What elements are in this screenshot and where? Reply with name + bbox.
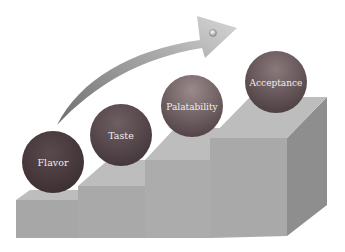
arrow-knob-icon xyxy=(210,30,217,37)
diagram-canvas: Flavor Taste Palatability Acceptance xyxy=(0,0,345,252)
step-acceptance: Acceptance xyxy=(245,51,307,113)
step-label: Flavor xyxy=(38,157,69,168)
step-label: Palatability xyxy=(166,102,218,112)
stair-front-4 xyxy=(210,138,287,238)
step-flavor: Flavor xyxy=(22,131,84,193)
step-label: Acceptance xyxy=(249,78,303,88)
stair-front-3 xyxy=(145,160,210,238)
step-label: Taste xyxy=(108,130,134,141)
step-taste: Taste xyxy=(90,104,152,166)
step-palatability: Palatability xyxy=(161,75,223,137)
stair-front-2 xyxy=(78,186,145,238)
